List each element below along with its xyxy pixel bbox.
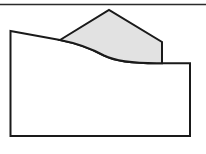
figure-svg — [0, 0, 206, 154]
figure-canvas — [0, 0, 206, 154]
